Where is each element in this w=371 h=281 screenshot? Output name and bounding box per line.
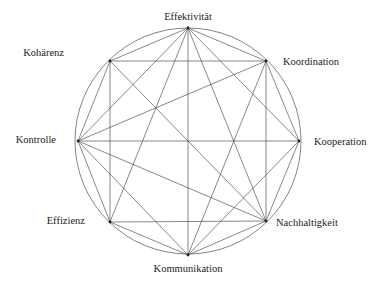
node-Ko [265, 60, 268, 63]
edge-Kh-Kt [78, 61, 110, 141]
edge-Km-Kt [78, 141, 188, 255]
node-E [187, 27, 190, 30]
node-Kh [109, 60, 112, 63]
edge-E-Kh [110, 28, 188, 61]
node-label: Kohärenz [23, 47, 64, 58]
node-label: Effizienz [47, 215, 86, 226]
node-label: Effektivität [164, 11, 212, 22]
node-Km [187, 254, 190, 257]
node-N [265, 220, 268, 223]
edge-N-Kt [78, 141, 266, 221]
edge-E-Ef [110, 28, 188, 222]
node-Kp [298, 140, 301, 143]
edge-E-N [188, 28, 266, 221]
node-label: Kooperation [314, 136, 367, 147]
node-label: Kontrolle [16, 134, 57, 145]
edge-Ko-Kt [78, 61, 266, 141]
node-label: Koordination [283, 56, 340, 67]
edge-Km-Ef [110, 222, 188, 255]
node-label: Nachhaltigkeit [276, 217, 338, 228]
labels: EffektivitätKoordinationKooperationNachh… [16, 11, 367, 274]
node-Kt [77, 140, 80, 143]
edge-E-Kp [188, 28, 299, 141]
node-label: Kommunikation [154, 263, 224, 274]
node-Ef [109, 221, 112, 224]
network-diagram: EffektivitätKoordinationKooperationNachh… [0, 0, 371, 281]
